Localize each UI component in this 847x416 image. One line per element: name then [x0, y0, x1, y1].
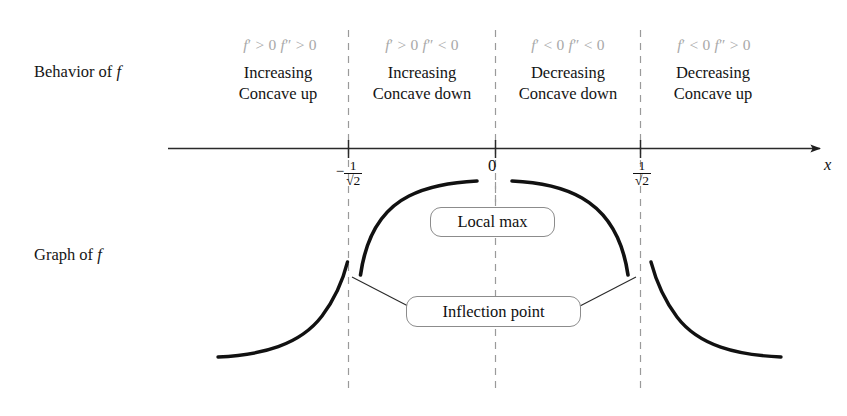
fraction-numerator: 1: [344, 159, 362, 173]
tick-label-negative-one-over-root-two: − 1 √2: [312, 158, 386, 187]
callout-local-max: Local max: [430, 207, 555, 237]
curve-branch-left: [218, 262, 348, 357]
tick-label-one-over-root-two: 1 √2: [608, 158, 676, 187]
fraction-denominator: √2: [344, 173, 362, 188]
callout-inflection-point: Inflection point: [406, 296, 581, 327]
callout-inflection-point-label: Inflection point: [442, 302, 544, 322]
leader-line-inflection-right: [580, 277, 636, 306]
x-axis-label: x: [824, 155, 831, 175]
drawing-layer: [0, 0, 847, 416]
curve-branch-right: [651, 262, 781, 357]
fraction-denominator: √2: [633, 173, 651, 188]
callout-local-max-label: Local max: [457, 212, 527, 232]
leader-line-inflection-left: [352, 277, 408, 306]
fraction-one-over-root-two: 1 √2: [633, 159, 651, 188]
tick-label-zero: 0: [488, 156, 496, 176]
minus-sign: −: [336, 163, 344, 180]
fraction-one-over-root-two: 1 √2: [344, 159, 362, 188]
fraction-numerator: 1: [633, 159, 651, 173]
diagram-canvas: Behavior of f Graph of f f′ > 0 f″ > 0 f…: [0, 0, 847, 416]
